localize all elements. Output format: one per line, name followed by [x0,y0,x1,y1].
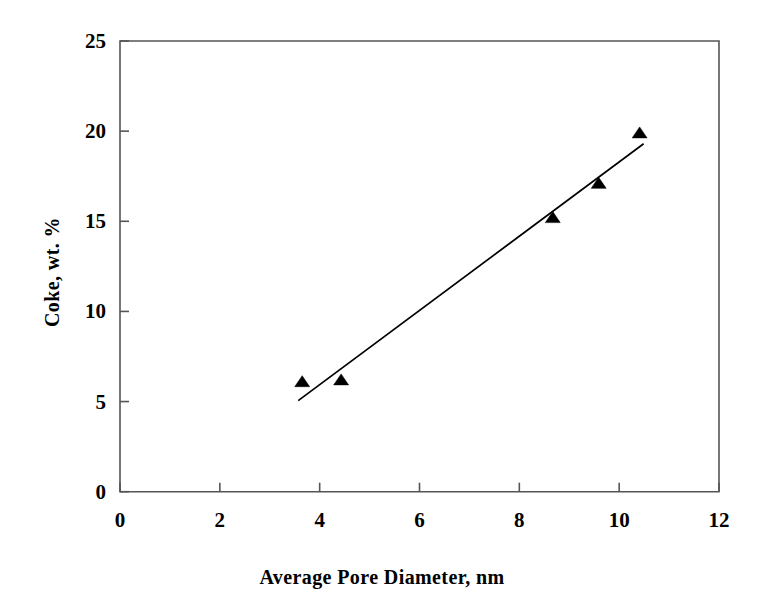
x-axis-title: Average Pore Diameter, nm [0,566,764,589]
x-tick-label: 10 [609,510,630,531]
y-tick-label: 25 [66,31,106,52]
plot-frame [120,41,719,492]
x-tick-label: 0 [115,510,126,531]
x-tick-label: 8 [514,510,525,531]
chart-figure: 0510152025 024681012 Average Pore Diamet… [0,0,764,612]
axis-tick-marks [120,41,719,492]
y-tick-label: 20 [66,121,106,142]
x-tick-label: 4 [314,510,325,531]
data-point-markers [295,127,647,387]
y-tick-label: 0 [66,481,106,502]
x-tick-label: 6 [414,510,425,531]
x-tick-label: 2 [215,510,226,531]
y-tick-label: 5 [66,391,106,412]
y-tick-label: 15 [66,211,106,232]
x-tick-label: 12 [709,510,730,531]
trend-line [298,144,643,401]
y-tick-label: 10 [66,301,106,322]
y-axis-title: Coke, wt. % [41,217,64,327]
